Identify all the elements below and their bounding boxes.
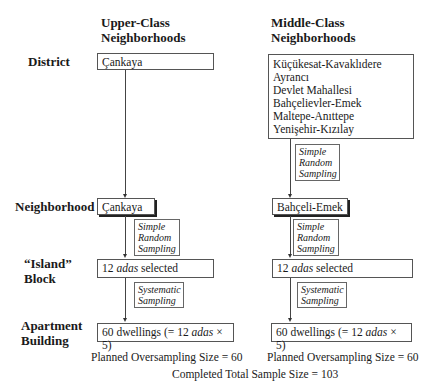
- upper-class-heading: Upper-Class Neighborhoods: [101, 15, 186, 45]
- method-line: Systematic: [138, 284, 180, 295]
- middle-neighborhood-box: Bahçeli-Emek: [272, 198, 348, 215]
- island-line1: “Island”: [24, 256, 72, 271]
- middle-neighborhood-method: Simple Random Sampling: [293, 219, 339, 256]
- middle-planned-size: Planned Oversampling Size = 60: [267, 351, 419, 363]
- middle-block-connector: [290, 278, 291, 318]
- middle-block-method: Systematic Sampling: [297, 282, 347, 308]
- arrow-down-icon: [288, 254, 292, 258]
- upper-block-connector: [125, 278, 126, 318]
- method-line: Sampling: [297, 243, 335, 254]
- upper-neighborhood-box: Çankaya: [97, 198, 155, 215]
- middle-neighborhood-connector: [290, 216, 291, 254]
- method-line: Sampling: [138, 243, 176, 254]
- apartment-line1: Apartment: [21, 318, 82, 333]
- row-label-island-block: “Island” Block: [24, 256, 72, 286]
- block-unit: adas: [116, 262, 138, 274]
- building-prefix: 60 dwellings (= 12: [276, 326, 363, 338]
- arrow-down-icon: [123, 254, 127, 258]
- method-line: Simple: [297, 221, 335, 232]
- row-label-district: District: [28, 54, 70, 69]
- upper-heading-line2: Neighborhoods: [101, 30, 186, 45]
- middle-district-box: Küçükesat-Kavaklıdere Ayrancı Devlet Mah…: [268, 54, 414, 139]
- upper-building-box: 60 dwellings (= 12 adas × 5): [97, 323, 234, 342]
- building-unit: adas: [192, 326, 214, 338]
- district-item: Maltepe-Anıttepe: [273, 110, 409, 123]
- arrow-down-icon: [123, 318, 127, 322]
- middle-district-method: Simple Random Sampling: [295, 144, 340, 181]
- middle-class-heading: Middle-Class Neighborhoods: [271, 15, 356, 45]
- upper-block-method: Systematic Sampling: [134, 282, 184, 308]
- arrow-down-icon: [288, 318, 292, 322]
- district-item: Bahçelievler-Emek: [273, 97, 409, 110]
- method-line: Sampling: [138, 295, 180, 306]
- method-line: Systematic: [301, 284, 343, 295]
- upper-planned-size: Planned Oversampling Size = 60: [91, 351, 243, 363]
- method-line: Simple: [138, 221, 176, 232]
- upper-block-box: 12 adas selected: [97, 259, 214, 278]
- method-line: Sampling: [301, 295, 343, 306]
- district-item: Devlet Mahallesi: [273, 84, 409, 97]
- upper-district-box: Çankaya: [97, 53, 214, 70]
- method-line: Random: [138, 232, 176, 243]
- block-suffix: selected: [316, 262, 353, 274]
- row-label-apartment-building: Apartment Building: [21, 318, 82, 348]
- completed-total-sample-size: Completed Total Sample Size = 103: [172, 368, 338, 380]
- middle-building-box: 60 dwellings (= 12 adas × 5): [271, 323, 412, 342]
- apartment-line2: Building: [21, 333, 82, 348]
- method-line: Sampling: [299, 168, 336, 179]
- block-suffix: selected: [141, 262, 178, 274]
- block-count: 12: [277, 262, 289, 274]
- district-item: Küçükesat-Kavaklıdere: [273, 58, 409, 71]
- method-line: Simple: [299, 146, 336, 157]
- middle-heading-line1: Middle-Class: [271, 15, 356, 30]
- building-prefix: 60 dwellings (= 12: [102, 326, 189, 338]
- district-item: Yenişehir-Kızılay: [273, 123, 409, 136]
- middle-block-box: 12 adas selected: [272, 259, 413, 278]
- method-line: Random: [297, 232, 335, 243]
- block-unit: adas: [291, 262, 313, 274]
- middle-heading-line2: Neighborhoods: [271, 30, 356, 45]
- block-count: 12: [102, 262, 114, 274]
- row-label-neighborhood: Neighborhood: [15, 199, 94, 214]
- upper-neighborhood-method: Simple Random Sampling: [134, 219, 180, 256]
- district-item: Ayrancı: [273, 71, 409, 84]
- upper-heading-line1: Upper-Class: [101, 15, 186, 30]
- building-unit: adas: [366, 326, 388, 338]
- island-line2: Block: [24, 271, 72, 286]
- method-line: Random: [299, 157, 336, 168]
- upper-neighborhood-connector: [125, 216, 126, 254]
- middle-district-connector: [290, 139, 291, 194]
- upper-district-connector: [125, 70, 126, 194]
